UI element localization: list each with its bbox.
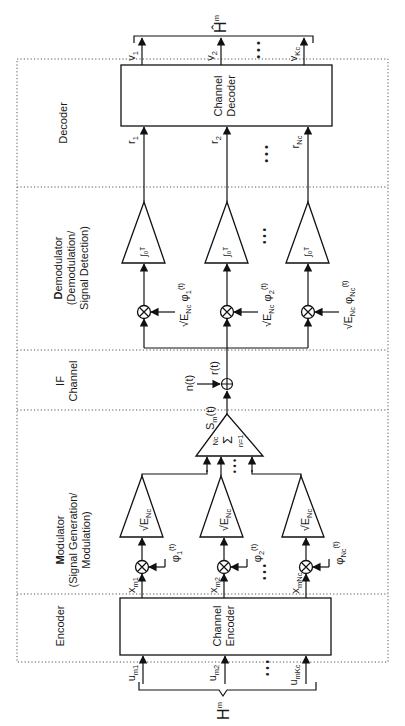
svg-text:xm2: xm2: [207, 577, 222, 593]
svg-text:Modulation): Modulation): [80, 511, 92, 568]
svg-text:• • •: • • •: [260, 145, 272, 163]
section-label-if-channel: IF Channel: [54, 361, 79, 402]
decoder-output-arrows: [142, 38, 304, 65]
svg-text:√ENc φ1(t): √ENc φ1(t): [176, 283, 193, 328]
svg-text:Decoder: Decoder: [57, 102, 69, 144]
svg-text:Modulator: Modulator: [54, 515, 66, 564]
section-label-decoder: Decoder: [57, 102, 69, 144]
demod-reference-labels: √ENc φ1(t) √ENc φ2(t) √ENc φNc(t): [176, 280, 357, 330]
svg-text:Encoder: Encoder: [224, 605, 236, 646]
svg-text:xmNc: xmNc: [289, 572, 304, 593]
svg-text:rNc: rNc: [289, 135, 304, 148]
multiplier-icon: [300, 561, 313, 574]
encoder-input-arrows: [143, 656, 306, 684]
svg-text:Demodulator: Demodulator: [52, 236, 64, 299]
svg-text:• • •: • • •: [230, 459, 240, 473]
svg-text:• • •: • • •: [262, 659, 273, 676]
gain-block-nc: √ENc: [282, 476, 324, 537]
multiplier-icon: [302, 306, 315, 319]
integrator-ellipsis: • • •: [259, 227, 270, 244]
decoder-input-labels: r1 r2 rNc • • •: [125, 135, 304, 163]
svg-text:Nc: Nc: [211, 436, 220, 445]
svg-text:∫₀ᵀ: ∫₀ᵀ: [303, 247, 313, 258]
svg-text:√ENc φNc(t): √ENc φNc(t): [340, 280, 357, 330]
svg-text:φNc(t): φNc(t): [331, 541, 348, 565]
adder-icon: [222, 379, 233, 390]
integrator-2: ∫₀ᵀ: [205, 202, 248, 263]
svg-text:r2: r2: [208, 136, 223, 144]
svg-text:Ĥm: Ĥm: [211, 15, 229, 33]
multiplier-icon: [136, 561, 149, 574]
noise-label: n(t): [183, 375, 195, 392]
svg-text:Encoder: Encoder: [54, 605, 66, 646]
gain-block-2: √ENc: [200, 476, 243, 537]
transmitted-signal-label: Sm(t): [204, 406, 219, 430]
svg-text:n=1: n=1: [236, 435, 245, 448]
svg-text:Channel: Channel: [212, 76, 224, 117]
encoder-input-labels: um1 um2 umKc • • •: [125, 659, 302, 685]
decoder-output-labels: v1 v2 vKc • • •: [125, 41, 302, 61]
input-message-label: Hm: [215, 702, 232, 720]
summer-block: Σ Nc n=1: [196, 414, 263, 456]
multiplier-icon: [138, 306, 151, 319]
channel-decoder-block: Channel Decoder: [121, 65, 332, 126]
multiplier-icon: [221, 306, 234, 319]
svg-text:√ENc φ2(t): √ENc φ2(t): [259, 283, 276, 328]
gain-block-1: √ENc: [120, 476, 163, 537]
svg-text:v1: v1: [125, 51, 140, 61]
svg-text:Σ: Σ: [220, 436, 235, 444]
section-label-demodulator: Demodulator (Demodulation/ Signal Detect…: [52, 226, 90, 310]
output-bracket: [134, 36, 313, 43]
svg-text:um1: um1: [125, 665, 140, 682]
demod-multiplier-to-integrator-arrows: [144, 264, 308, 305]
block-diagram: Decoder Demodulator (Demodulation/ Signa…: [0, 0, 405, 726]
basis-function-labels: φ1(t) φ2(t) φNc(t) • • •: [167, 541, 348, 580]
received-signal-label: r(t): [208, 361, 220, 375]
svg-text:IF: IF: [54, 376, 66, 386]
encoder-output-labels: xm1 xm2 xmNc: [125, 572, 304, 593]
output-message-label: Ĥm: [211, 15, 229, 33]
svg-text:xm1: xm1: [125, 577, 140, 593]
integrator-1: ∫₀ᵀ: [122, 202, 165, 263]
svg-text:• • •: • • •: [259, 563, 270, 580]
channel-encoder-block: Channel Encoder: [120, 598, 331, 655]
svg-text:Decoder: Decoder: [225, 75, 237, 117]
section-label-encoder: Encoder: [54, 605, 66, 646]
svg-text:v2: v2: [204, 51, 219, 61]
svg-text:r1: r1: [125, 136, 140, 144]
svg-text:• • •: • • •: [252, 41, 264, 59]
svg-text:∫₀ᵀ: ∫₀ᵀ: [222, 247, 232, 258]
svg-text:Signal Detection): Signal Detection): [78, 226, 90, 310]
summer-input-arrows: • • •: [142, 457, 301, 476]
svg-text:umKc: umKc: [287, 664, 302, 685]
decoder-input-arrows: [144, 127, 308, 202]
svg-text:φ1(t): φ1(t): [167, 543, 184, 562]
svg-text:Channel: Channel: [211, 606, 223, 647]
section-label-modulator: Modulator (Signal Generation/ Modulation…: [54, 492, 92, 588]
svg-text:φ2(t): φ2(t): [249, 543, 266, 562]
svg-text:(Demodulation/: (Demodulation/: [65, 230, 77, 306]
svg-text:(Signal Generation/: (Signal Generation/: [67, 492, 79, 588]
integrator-nc: ∫₀ᵀ: [286, 202, 329, 263]
svg-text:∫₀ᵀ: ∫₀ᵀ: [139, 247, 149, 258]
svg-text:um2: um2: [206, 665, 221, 682]
svg-text:Channel: Channel: [67, 361, 79, 402]
multiplier-icon: [218, 561, 231, 574]
